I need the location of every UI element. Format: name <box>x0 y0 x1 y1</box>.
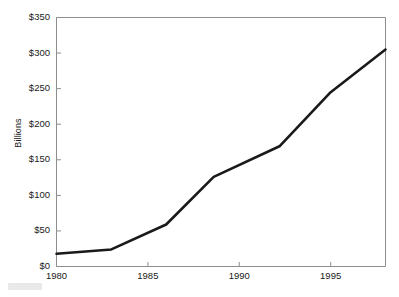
x-tick-label: 1980 <box>32 270 82 281</box>
y-axis-label-container: Billions <box>6 0 28 297</box>
data-series-group <box>57 50 386 254</box>
scan-artifact <box>8 283 42 290</box>
plot-canvas <box>0 0 399 297</box>
plot-border <box>57 18 386 267</box>
y-axis-ticks <box>57 18 62 267</box>
y-tick-label: $200 <box>0 118 50 129</box>
data-line <box>57 50 386 254</box>
y-tick-label: $300 <box>0 47 50 58</box>
plot-frame <box>57 18 386 267</box>
y-tick-label: $100 <box>0 189 50 200</box>
y-tick-label: $50 <box>0 224 50 235</box>
x-tick-label: 1995 <box>306 270 356 281</box>
y-tick-label: $350 <box>0 11 50 22</box>
line-chart: Billions $0$50$100$150$200$250$300$350 1… <box>0 0 399 297</box>
x-tick-label: 1985 <box>123 270 173 281</box>
x-tick-label: 1990 <box>214 270 264 281</box>
y-tick-label: $250 <box>0 82 50 93</box>
y-tick-label: $150 <box>0 153 50 164</box>
x-axis-ticks <box>148 262 331 267</box>
